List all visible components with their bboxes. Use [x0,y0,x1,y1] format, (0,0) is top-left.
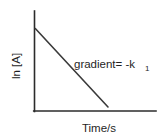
x-axis-label: Time/s [82,122,116,134]
y-axis-label: ln [A] [10,53,22,79]
kinetics-plot-figure: ln [A] Time/s gradient= -k 1 [0,0,167,138]
gradient-annotation-text: gradient= -k [74,58,135,70]
plot-canvas: ln [A] Time/s gradient= -k 1 [0,0,167,138]
gradient-annotation-subscript: 1 [145,64,150,73]
